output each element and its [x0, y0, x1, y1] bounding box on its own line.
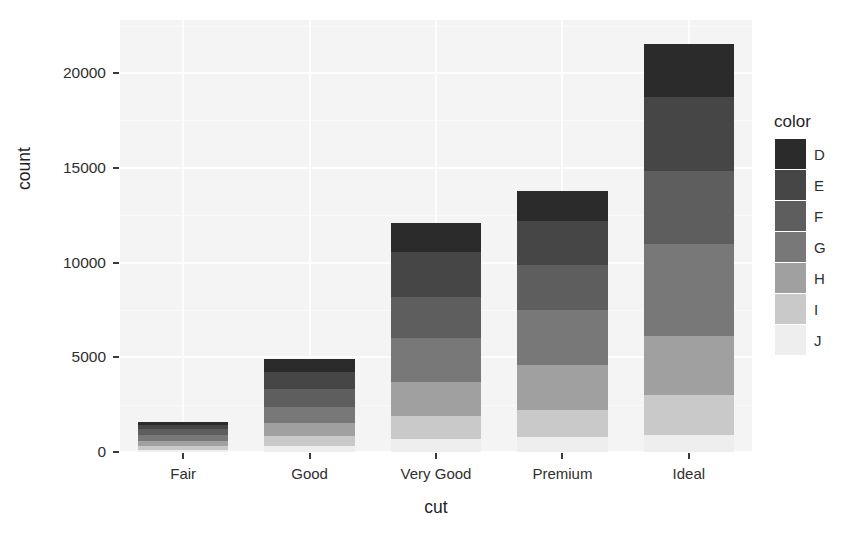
- x-tick-label: Good: [240, 466, 380, 481]
- bar-segment-very-good-G[interactable]: [391, 338, 481, 382]
- legend-label-J: J: [814, 333, 822, 348]
- bar-segment-very-good-F[interactable]: [391, 297, 481, 338]
- legend: color DEFGHIJ: [772, 112, 862, 356]
- y-tick-label: 5000: [20, 349, 106, 365]
- bar-segment-ideal-I[interactable]: [644, 395, 734, 435]
- legend-item-H[interactable]: H: [772, 263, 862, 294]
- bar-segment-fair-J[interactable]: [138, 450, 228, 452]
- x-tick-mark: [309, 453, 311, 459]
- bar-segment-premium-I[interactable]: [517, 410, 607, 437]
- bar-segment-ideal-J[interactable]: [644, 435, 734, 452]
- bar-segment-good-J[interactable]: [264, 446, 354, 452]
- bar-segment-ideal-F[interactable]: [644, 171, 734, 243]
- bar-segment-fair-I[interactable]: [138, 446, 228, 449]
- bar-segment-good-F[interactable]: [264, 389, 354, 406]
- bar-segment-very-good-E[interactable]: [391, 252, 481, 297]
- legend-item-I[interactable]: I: [772, 294, 862, 325]
- bar-segment-ideal-H[interactable]: [644, 336, 734, 395]
- legend-item-G[interactable]: G: [772, 232, 862, 263]
- legend-label-F: F: [814, 209, 823, 224]
- stacked-bar-chart: 05000100001500020000 count FairGoodVery …: [0, 0, 865, 542]
- y-tick-mark: [113, 356, 119, 358]
- bar-segment-fair-F[interactable]: [138, 429, 228, 435]
- bar-segment-fair-G[interactable]: [138, 435, 228, 441]
- plot-panel: [120, 20, 752, 452]
- bar-segment-very-good-H[interactable]: [391, 382, 481, 417]
- bar-segment-premium-J[interactable]: [517, 437, 607, 452]
- bar-stack-fair[interactable]: [138, 422, 228, 453]
- bar-segment-fair-H[interactable]: [138, 441, 228, 447]
- bar-segment-very-good-D[interactable]: [391, 223, 481, 252]
- bar-segment-good-G[interactable]: [264, 407, 354, 424]
- x-tick-label: Very Good: [366, 466, 506, 481]
- legend-item-F[interactable]: F: [772, 201, 862, 232]
- legend-item-J[interactable]: J: [772, 325, 862, 356]
- bar-segment-premium-F[interactable]: [517, 265, 607, 309]
- y-tick-mark: [113, 451, 119, 453]
- x-tick-mark: [561, 453, 563, 459]
- legend-item-E[interactable]: E: [772, 170, 862, 201]
- x-tick-label: Fair: [113, 466, 253, 481]
- bar-stack-very-good[interactable]: [391, 223, 481, 452]
- x-tick-mark: [435, 453, 437, 459]
- legend-items: DEFGHIJ: [772, 139, 862, 356]
- bar-segment-fair-D[interactable]: [138, 422, 228, 425]
- y-tick-mark: [113, 72, 119, 74]
- legend-title: color: [772, 112, 862, 132]
- legend-label-H: H: [814, 271, 825, 286]
- bar-segment-very-good-I[interactable]: [391, 416, 481, 439]
- y-axis-title: count: [14, 168, 35, 190]
- y-tick-label: 20000: [20, 65, 106, 81]
- bar-stack-ideal[interactable]: [644, 44, 734, 452]
- bar-segment-premium-H[interactable]: [517, 365, 607, 410]
- x-axis-title: cut: [120, 497, 752, 518]
- bar-segment-premium-D[interactable]: [517, 191, 607, 221]
- bar-segment-premium-G[interactable]: [517, 310, 607, 365]
- gridline-major-x: [182, 20, 184, 452]
- legend-swatch-I: [775, 294, 806, 324]
- bar-segment-fair-E[interactable]: [138, 425, 228, 429]
- bar-segment-good-E[interactable]: [264, 372, 354, 390]
- legend-swatch-G: [775, 232, 806, 262]
- y-tick-label: 0: [20, 444, 106, 460]
- bar-segment-premium-E[interactable]: [517, 221, 607, 265]
- x-tick-mark: [688, 453, 690, 459]
- legend-label-G: G: [814, 240, 826, 255]
- legend-label-I: I: [814, 302, 818, 317]
- bar-segment-ideal-D[interactable]: [644, 44, 734, 98]
- x-tick-label: Ideal: [619, 466, 759, 481]
- legend-swatch-J: [775, 325, 806, 355]
- bar-segment-good-I[interactable]: [264, 436, 354, 446]
- legend-swatch-F: [775, 201, 806, 231]
- y-tick-mark: [113, 262, 119, 264]
- bar-segment-ideal-E[interactable]: [644, 97, 734, 171]
- bar-stack-good[interactable]: [264, 359, 354, 452]
- bar-stack-premium[interactable]: [517, 191, 607, 452]
- legend-item-D[interactable]: D: [772, 139, 862, 170]
- y-tick-label: 10000: [20, 255, 106, 271]
- bar-segment-good-D[interactable]: [264, 359, 354, 372]
- bar-segment-ideal-G[interactable]: [644, 244, 734, 337]
- bar-segment-good-H[interactable]: [264, 423, 354, 436]
- bar-segment-very-good-J[interactable]: [391, 439, 481, 452]
- legend-label-D: D: [814, 147, 825, 162]
- legend-label-E: E: [814, 178, 824, 193]
- legend-swatch-D: [775, 139, 806, 169]
- x-tick-label: Premium: [492, 466, 632, 481]
- x-tick-mark: [182, 453, 184, 459]
- legend-swatch-E: [775, 170, 806, 200]
- y-tick-mark: [113, 167, 119, 169]
- legend-swatch-H: [775, 263, 806, 293]
